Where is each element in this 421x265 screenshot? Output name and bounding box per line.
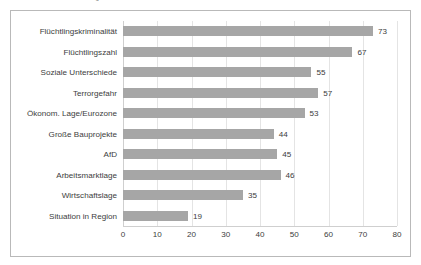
category-label: Flüchtlingskriminalität	[40, 27, 117, 36]
value-label: 35	[248, 191, 257, 200]
value-label: 53	[310, 109, 319, 118]
category-label: AfD	[104, 150, 118, 159]
category-label: Wirtschaftslage	[62, 191, 117, 200]
value-label: 19	[193, 211, 202, 220]
bar[interactable]	[123, 108, 305, 118]
x-tick-label: 50	[290, 230, 299, 239]
bar-row: Situation in Region19	[123, 206, 397, 227]
x-tick-label: 80	[392, 230, 401, 239]
bar-row: Wirtschaftslage35	[123, 185, 397, 206]
x-tick-label: 30	[221, 230, 230, 239]
bar-row: Ökonom. Lage/Eurozone53	[123, 103, 397, 124]
x-tick-label: 60	[324, 230, 333, 239]
gridline-80	[397, 21, 398, 226]
value-label: 46	[286, 170, 295, 179]
bar-row: Große Bauprojekte44	[123, 124, 397, 145]
value-label: 67	[357, 47, 366, 56]
category-label: Ökonom. Lage/Eurozone	[27, 109, 117, 118]
value-label: 55	[316, 68, 325, 77]
bar-row: Arbeitsmarktlage46	[123, 165, 397, 186]
category-label: Situation in Region	[49, 211, 117, 220]
x-tick-label: 70	[358, 230, 367, 239]
bar[interactable]	[123, 129, 274, 139]
value-label: 57	[323, 88, 332, 97]
category-label: Große Bauprojekte	[49, 129, 117, 138]
bar[interactable]	[123, 26, 373, 36]
bar[interactable]	[123, 47, 352, 57]
bar[interactable]	[123, 67, 311, 77]
category-label: Arbeitsmarktlage	[56, 170, 117, 179]
x-tick-label: 0	[121, 230, 126, 239]
bar[interactable]	[123, 190, 243, 200]
bar-row: Flüchtlingszahl67	[123, 42, 397, 63]
bar[interactable]	[123, 211, 188, 221]
x-tick-label: 40	[255, 230, 264, 239]
category-label: Terrorgefahr	[73, 88, 117, 97]
plot-area: Flüchtlingskriminalität73Flüchtlingszahl…	[123, 21, 397, 226]
bar-row: Flüchtlingskriminalität73	[123, 21, 397, 42]
bar[interactable]	[123, 149, 277, 159]
bar[interactable]	[123, 88, 318, 98]
value-label: 45	[282, 150, 291, 159]
x-axis-line	[123, 226, 397, 227]
value-label: 44	[279, 129, 288, 138]
category-label: Soziale Unterschiede	[41, 68, 117, 77]
bar[interactable]	[123, 170, 281, 180]
chart-subtitle: in % der Befragten	[55, 0, 108, 1]
bar-row: Terrorgefahr57	[123, 83, 397, 104]
x-tick-label: 20	[187, 230, 196, 239]
value-label: 73	[378, 27, 387, 36]
category-label: Flüchtlingszahl	[63, 47, 117, 56]
bar-row: AfD45	[123, 144, 397, 165]
bar-row: Soziale Unterschiede55	[123, 62, 397, 83]
bar-chart: Flüchtlingskriminalität73Flüchtlingszahl…	[11, 11, 410, 256]
x-tick-label: 10	[153, 230, 162, 239]
chart-frame: Flüchtlingskriminalität73Flüchtlingszahl…	[10, 10, 411, 257]
